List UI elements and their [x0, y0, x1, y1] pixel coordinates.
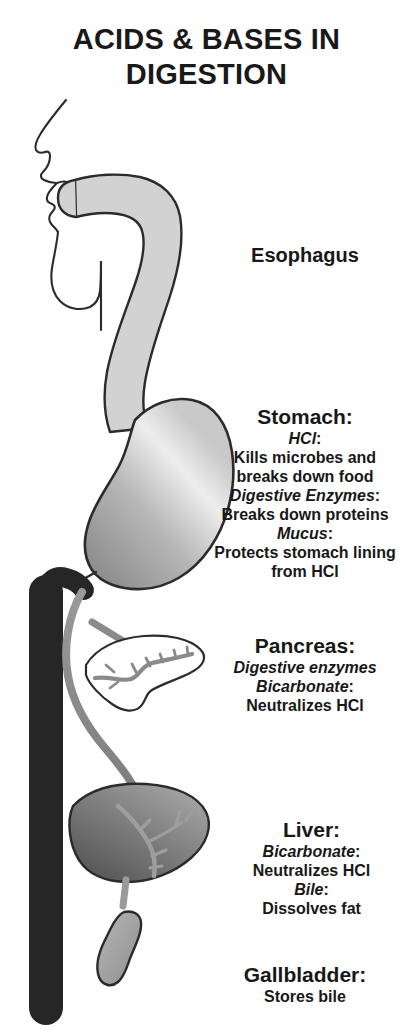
label-liver-heading: Liver: [213, 817, 410, 842]
label-pancreas-sub-enzymes: Digestive enzymes [200, 658, 410, 677]
bile-duct-vessel [66, 592, 142, 806]
label-stomach-mucus-line-2: from HCl [200, 562, 410, 581]
label-pancreas-heading: Pancreas: [200, 633, 410, 658]
gallbladder-organ [97, 880, 141, 985]
label-liver-bile-line-1: Dissolves fat [213, 899, 410, 918]
label-stomach-mucus-line-1: Protects stomach lining [200, 543, 410, 562]
head-profile-icon [35, 100, 101, 330]
label-liver-bicarbonate-line-1: Neutralizes HCl [213, 861, 410, 880]
label-stomach: Stomach: HCl: Kills microbes and breaks … [200, 404, 410, 581]
label-stomach-sub-enzymes: Digestive Enzymes: [200, 486, 410, 505]
liver-organ [69, 784, 208, 882]
label-gallbladder-heading: Gallbladder: [200, 962, 410, 987]
label-gallbladder-line-1: Stores bile [200, 987, 410, 1006]
label-stomach-sub-hcl: HCl: [200, 429, 410, 448]
label-pancreas: Pancreas: Digestive enzymes Bicarbonate:… [200, 633, 410, 715]
label-esophagus: Esophagus [200, 243, 410, 267]
label-esophagus-heading: Esophagus [200, 243, 410, 267]
pancreas-organ [86, 636, 204, 711]
label-stomach-enzymes-line-1: Breaks down proteins [200, 505, 410, 524]
label-gallbladder: Gallbladder: Stores bile [200, 962, 410, 1006]
esophagus-organ [58, 175, 181, 432]
page-title-line-2: DIGESTION [0, 57, 413, 92]
page-title: ACIDS & BASES IN DIGESTION [0, 22, 413, 92]
label-liver-sub-bicarbonate: Bicarbonate: [213, 842, 410, 861]
label-stomach-hcl-line-1: Kills microbes and [200, 448, 410, 467]
label-stomach-sub-mucus: Mucus: [200, 524, 410, 543]
label-pancreas-sub-bicarbonate: Bicarbonate: [200, 677, 410, 696]
page-title-line-1: ACIDS & BASES IN [0, 22, 413, 57]
label-stomach-hcl-line-2: breaks down food [200, 467, 410, 486]
intestine-organ [46, 577, 84, 1008]
label-liver: Liver: Bicarbonate: Neutralizes HCl Bile… [213, 817, 410, 918]
label-pancreas-bicarbonate-line-1: Neutralizes HCl [200, 696, 410, 715]
label-liver-sub-bile: Bile: [213, 880, 410, 899]
label-stomach-heading: Stomach: [200, 404, 410, 429]
digestion-diagram-page: ACIDS & BASES IN DIGESTION [0, 0, 413, 1035]
